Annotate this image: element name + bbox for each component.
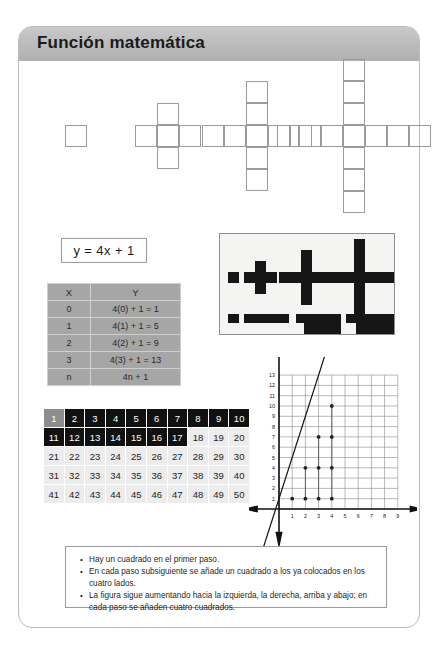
equation-box: y = 4x + 1 <box>61 238 147 263</box>
figure-cell <box>157 125 179 147</box>
grid-cell[interactable]: 32 <box>64 466 85 485</box>
photo-shape-cross <box>301 250 312 305</box>
figure-cell <box>343 191 365 213</box>
grid-cell[interactable]: 9 <box>208 409 229 428</box>
grid-cell[interactable]: 15 <box>126 428 147 447</box>
figure-cell <box>246 125 268 147</box>
figure-cell <box>202 125 224 147</box>
grid-cell[interactable]: 36 <box>146 466 167 485</box>
grid-cell[interactable]: 18 <box>188 428 209 447</box>
plot-svg: 12345678912345678910111213 <box>249 357 417 547</box>
table-cell-y: 4(1) + 1 = 5 <box>91 318 181 335</box>
page-header: Función matemática <box>19 27 419 61</box>
table-row: 1 4(1) + 1 = 5 <box>48 318 181 335</box>
svg-text:13: 13 <box>269 372 275 378</box>
grid-cell[interactable]: 37 <box>167 466 188 485</box>
grid-cell[interactable]: 1 <box>44 409 65 428</box>
notes-box: Hay un cuadrado en el primer paso. En ca… <box>65 546 387 608</box>
photo-shape-bar <box>304 323 341 335</box>
figure-cell <box>277 125 299 147</box>
table-cell-y: 4(2) + 1 = 9 <box>91 335 181 352</box>
figure-cell <box>343 147 365 169</box>
table-row: 11 12 13 14 15 16 17 18 19 20 <box>44 428 250 447</box>
grid-cell[interactable]: 24 <box>105 447 126 466</box>
figure-cell <box>246 169 268 191</box>
grid-cell[interactable]: 23 <box>85 447 106 466</box>
svg-text:5: 5 <box>272 455 275 461</box>
svg-text:2: 2 <box>304 513 307 519</box>
grid-cell[interactable]: 3 <box>85 409 106 428</box>
figure-sequence <box>19 67 419 187</box>
svg-text:11: 11 <box>269 393 275 399</box>
photo-shape-bar <box>228 314 239 323</box>
figure-cell <box>299 125 321 147</box>
grid-cell[interactable]: 48 <box>188 485 209 504</box>
figure-cell <box>321 125 343 147</box>
grid-cell[interactable]: 46 <box>146 485 167 504</box>
grid-cell[interactable]: 28 <box>188 447 209 466</box>
grid-cell[interactable]: 35 <box>126 466 147 485</box>
grid-cell[interactable]: 47 <box>167 485 188 504</box>
grid-cell[interactable]: 50 <box>229 485 250 504</box>
black-cross-photo <box>219 233 395 335</box>
photo-shape-bar <box>244 314 289 323</box>
grid-cell[interactable]: 38 <box>188 466 209 485</box>
figure-cell <box>157 103 179 125</box>
grid-cell[interactable]: 26 <box>146 447 167 466</box>
grid-cell[interactable]: 19 <box>208 428 229 447</box>
figure-cell <box>343 81 365 103</box>
grid-cell[interactable]: 45 <box>126 485 147 504</box>
svg-text:8: 8 <box>383 513 386 519</box>
grid-cell[interactable]: 22 <box>64 447 85 466</box>
grid-cell[interactable]: 21 <box>44 447 65 466</box>
grid-cell[interactable]: 6 <box>146 409 167 428</box>
grid-cell[interactable]: 27 <box>167 447 188 466</box>
grid-cell[interactable]: 12 <box>64 428 85 447</box>
figure-cell <box>343 103 365 125</box>
table-row: n 4n + 1 <box>48 369 181 386</box>
grid-cell[interactable]: 20 <box>229 428 250 447</box>
list-item: Hay un cuadrado en el primer paso. <box>89 554 376 565</box>
grid-cell[interactable]: 13 <box>85 428 106 447</box>
svg-text:8: 8 <box>272 424 275 430</box>
table-cell-y: 4(0) + 1 = 1 <box>91 301 181 318</box>
figure-cell <box>365 125 387 147</box>
grid-cell[interactable]: 11 <box>44 428 65 447</box>
grid-cell[interactable]: 39 <box>208 466 229 485</box>
svg-text:9: 9 <box>396 513 399 519</box>
grid-cell[interactable]: 31 <box>44 466 65 485</box>
photo-shape-bar <box>356 323 395 335</box>
grid-cell[interactable]: 30 <box>229 447 250 466</box>
figure-cell <box>387 125 409 147</box>
grid-cell[interactable]: 29 <box>208 447 229 466</box>
svg-text:4: 4 <box>272 465 275 471</box>
grid-cell[interactable]: 8 <box>188 409 209 428</box>
grid-cell[interactable]: 10 <box>229 409 250 428</box>
grid-cell[interactable]: 44 <box>105 485 126 504</box>
grid-cell[interactable]: 43 <box>85 485 106 504</box>
grid-cell[interactable]: 49 <box>208 485 229 504</box>
table-header-y: Y <box>91 284 181 301</box>
svg-text:7: 7 <box>370 513 373 519</box>
grid-cell[interactable]: 25 <box>126 447 147 466</box>
grid-cell[interactable]: 2 <box>64 409 85 428</box>
grid-cell[interactable]: 34 <box>105 466 126 485</box>
grid-cell[interactable]: 40 <box>229 466 250 485</box>
notes-list: Hay un cuadrado en el primer paso. En ca… <box>78 554 376 613</box>
figure-cell <box>246 103 268 125</box>
grid-cell[interactable]: 14 <box>105 428 126 447</box>
xy-table: X Y 0 4(0) + 1 = 1 1 4(1) + 1 = 5 2 4(2)… <box>47 283 181 386</box>
grid-cell[interactable]: 4 <box>105 409 126 428</box>
grid-cell[interactable]: 41 <box>44 485 65 504</box>
figure-cell <box>246 147 268 169</box>
grid-cell[interactable]: 7 <box>167 409 188 428</box>
grid-cell[interactable]: 16 <box>146 428 167 447</box>
grid-cell[interactable]: 17 <box>167 428 188 447</box>
grid-cell[interactable]: 5 <box>126 409 147 428</box>
grid-cell[interactable]: 33 <box>85 466 106 485</box>
table-row: 31 32 33 34 35 36 37 38 39 40 <box>44 466 250 485</box>
grid-cell[interactable]: 42 <box>64 485 85 504</box>
cartesian-plot: 12345678912345678910111213 <box>249 357 417 547</box>
svg-text:6: 6 <box>357 513 360 519</box>
photo-shape-cross <box>354 239 365 316</box>
